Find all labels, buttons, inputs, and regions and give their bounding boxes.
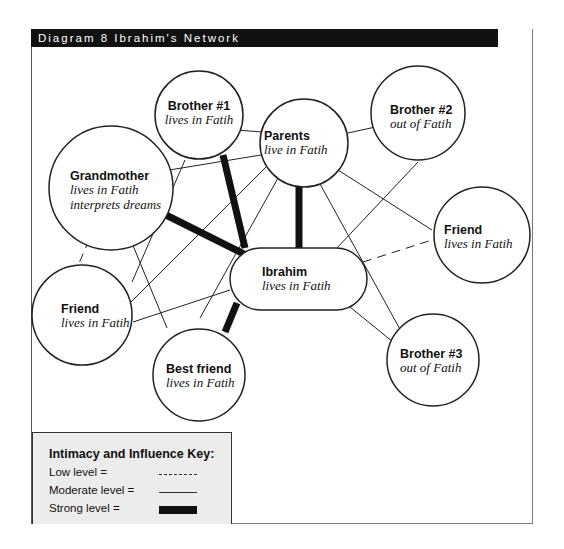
node-friend-right[interactable]: Friend lives in Fatih <box>444 223 513 252</box>
node-brother3[interactable]: Brother #3 out of Fatih <box>400 347 463 376</box>
node-location: lives in Fatih <box>444 238 513 253</box>
line-ibrahim-friend-right <box>363 240 432 262</box>
node-location: lives in Fatih <box>70 183 161 198</box>
node-grandmother[interactable]: Grandmother lives in Fatih interprets dr… <box>70 169 161 213</box>
node-name: Friend <box>61 302 130 316</box>
line-ibrahim-best-friend <box>225 303 237 332</box>
node-name: Ibrahim <box>262 265 331 279</box>
line-ibrahim-brother2 <box>336 162 418 249</box>
legend-low-sample <box>159 474 197 475</box>
node-location: out of Fatih <box>390 118 453 133</box>
node-location: live in Fatih <box>264 144 328 159</box>
node-parents[interactable]: Parents live in Fatih <box>264 129 328 158</box>
node-brother2[interactable]: Brother #2 out of Fatih <box>390 103 453 132</box>
node-name: Grandmother <box>70 169 161 183</box>
node-name: Brother #1 <box>165 99 234 113</box>
node-name: Brother #3 <box>400 347 463 361</box>
node-name: Best friend <box>166 362 235 376</box>
line-ibrahim-brother1 <box>223 155 245 248</box>
legend-strong-label: Strong level = <box>49 502 120 514</box>
legend-strong-sample <box>159 506 197 514</box>
node-location: lives in Fatih <box>166 377 235 392</box>
line-parents-friend-right <box>338 170 432 230</box>
node-location: lives in Fatih <box>61 317 130 332</box>
legend-title: Intimacy and Influence Key: <box>49 447 214 461</box>
node-brother1[interactable]: Brother #1 lives in Fatih <box>165 99 234 128</box>
legend-moderate-sample <box>159 492 197 493</box>
legend-key: Intimacy and Influence Key: Low level = … <box>32 432 232 524</box>
node-name: Brother #2 <box>390 103 453 117</box>
line-ibrahim-friend-left <box>133 290 230 322</box>
node-ibrahim[interactable]: Ibrahim lives in Fatih <box>262 265 331 294</box>
node-location: out of Fatih <box>400 362 463 377</box>
node-best-friend[interactable]: Best friend lives in Fatih <box>166 362 235 391</box>
node-name: Parents <box>264 129 328 143</box>
node-name: Friend <box>444 223 513 237</box>
node-location: lives in Fatih <box>262 280 331 295</box>
node-note: interprets dreams <box>70 198 161 213</box>
node-friend-left[interactable]: Friend lives in Fatih <box>61 302 130 331</box>
legend-low-label: Low level = <box>49 466 107 478</box>
line-ibrahim-brother3 <box>350 307 393 342</box>
node-location: lives in Fatih <box>165 114 234 129</box>
legend-moderate-label: Moderate level = <box>49 484 134 496</box>
